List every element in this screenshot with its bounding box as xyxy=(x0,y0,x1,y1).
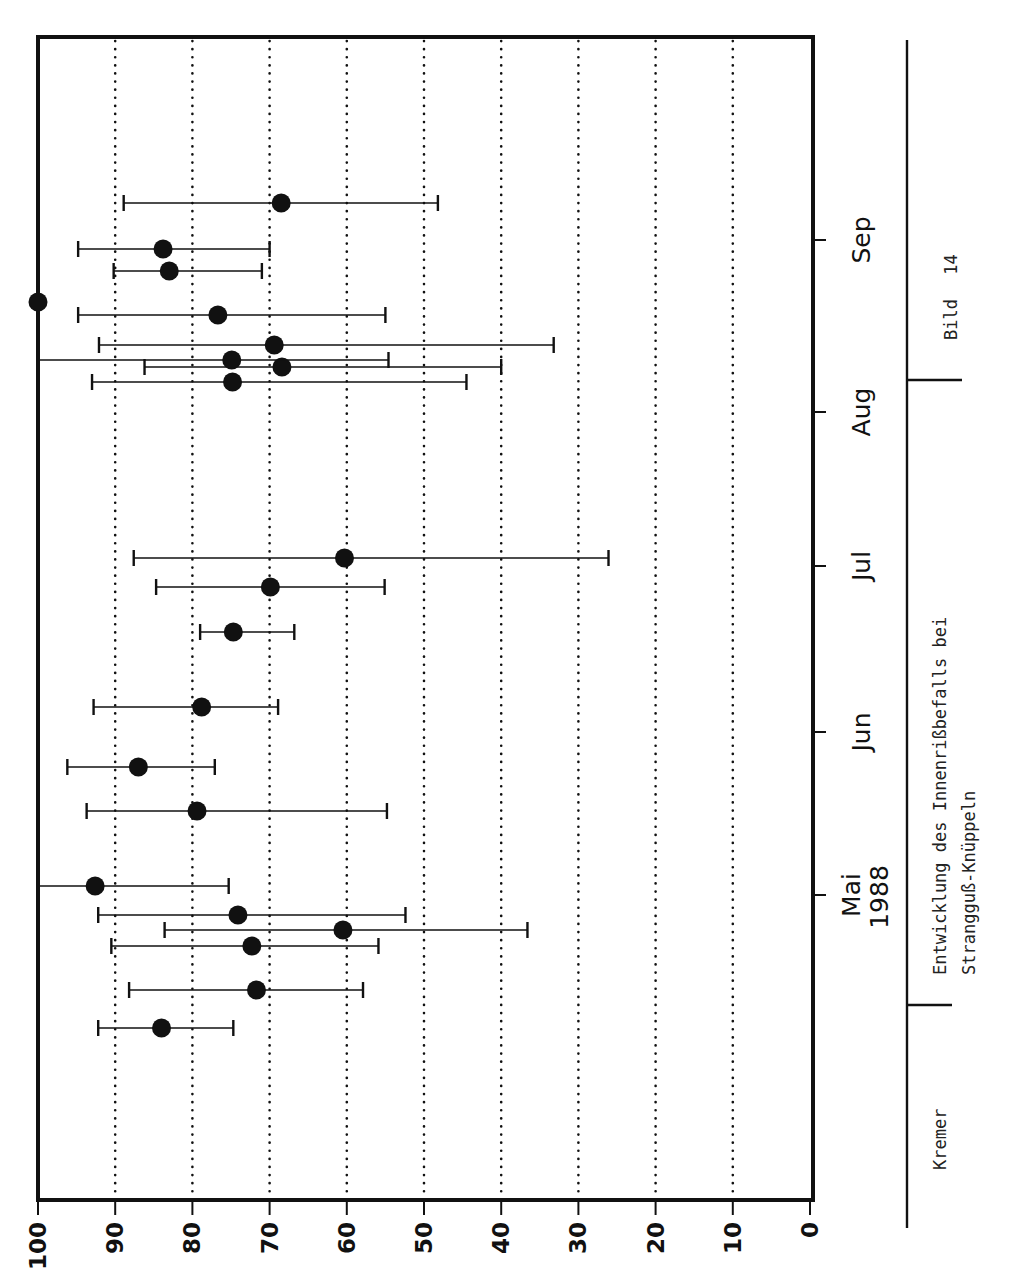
data-marker xyxy=(261,578,280,597)
year-label: 1988 xyxy=(865,865,894,929)
data-marker xyxy=(208,306,227,325)
data-point xyxy=(38,877,229,896)
value-tick-label: 40 xyxy=(488,1222,514,1254)
value-tick-label: 30 xyxy=(565,1222,591,1254)
data-marker xyxy=(224,623,243,642)
value-tick-label: 10 xyxy=(720,1222,746,1254)
month-label: Sep xyxy=(847,216,876,263)
data-marker xyxy=(188,802,207,821)
figure-label-word: Bild xyxy=(941,299,961,340)
data-marker xyxy=(129,758,148,777)
data-marker xyxy=(223,373,242,392)
value-tick-label: 90 xyxy=(102,1222,128,1254)
value-tick-label: 50 xyxy=(411,1222,437,1254)
data-point xyxy=(134,549,609,568)
data-point xyxy=(165,921,528,940)
data-marker xyxy=(242,937,261,956)
data-point xyxy=(98,1019,233,1038)
value-tick-label: 100 xyxy=(25,1222,51,1270)
data-marker xyxy=(152,1019,171,1038)
data-point xyxy=(94,698,279,717)
gridlines xyxy=(115,41,733,1197)
data-point xyxy=(124,194,438,213)
data-point xyxy=(129,981,363,1000)
data-marker xyxy=(222,351,241,370)
data-marker xyxy=(333,921,352,940)
data-marker xyxy=(192,698,211,717)
data-point xyxy=(78,306,385,325)
caption-line-2: Strangguß-Knüppeln xyxy=(959,791,979,975)
chart-figure: 1009080706050403020100 Mai1988JunJulAugS… xyxy=(0,0,1015,1284)
month-label: Jun xyxy=(847,712,876,753)
data-marker xyxy=(247,981,266,1000)
data-point xyxy=(67,758,214,777)
data-marker xyxy=(335,549,354,568)
value-axis-ticks xyxy=(38,1200,810,1215)
value-tick-label: 60 xyxy=(334,1222,360,1254)
month-label: Mai xyxy=(837,873,866,917)
value-axis-labels: 1009080706050403020100 xyxy=(25,1222,823,1270)
data-point xyxy=(99,336,554,355)
author-label: Kremer xyxy=(930,1109,950,1170)
value-tick-label: 80 xyxy=(179,1222,205,1254)
figure-number: 14 xyxy=(941,254,961,274)
title-block: Kremer Entwicklung des Innenrißbefalls b… xyxy=(907,40,979,1228)
data-point xyxy=(78,240,269,259)
data-point xyxy=(111,937,378,956)
data-marker xyxy=(272,194,291,213)
data-marker xyxy=(228,906,247,925)
data-point xyxy=(156,578,385,597)
figure-label: Bild 14 xyxy=(941,254,961,340)
value-tick-label: 0 xyxy=(797,1222,823,1238)
data-point xyxy=(87,802,387,821)
data-point xyxy=(200,623,294,642)
caption-line-1: Entwicklung des Innenrißbefalls bei xyxy=(930,617,950,975)
data-marker xyxy=(154,240,173,259)
month-label: Aug xyxy=(847,388,876,437)
data-marker xyxy=(160,262,179,281)
value-tick-label: 70 xyxy=(257,1222,283,1254)
month-label: Jul xyxy=(847,551,876,583)
data-marker xyxy=(86,877,105,896)
time-axis-labels: Mai1988JunJulAugSep xyxy=(837,216,894,928)
data-point xyxy=(98,906,405,925)
data-point xyxy=(114,262,262,281)
value-tick-label: 20 xyxy=(643,1222,669,1254)
data-marker xyxy=(265,336,284,355)
